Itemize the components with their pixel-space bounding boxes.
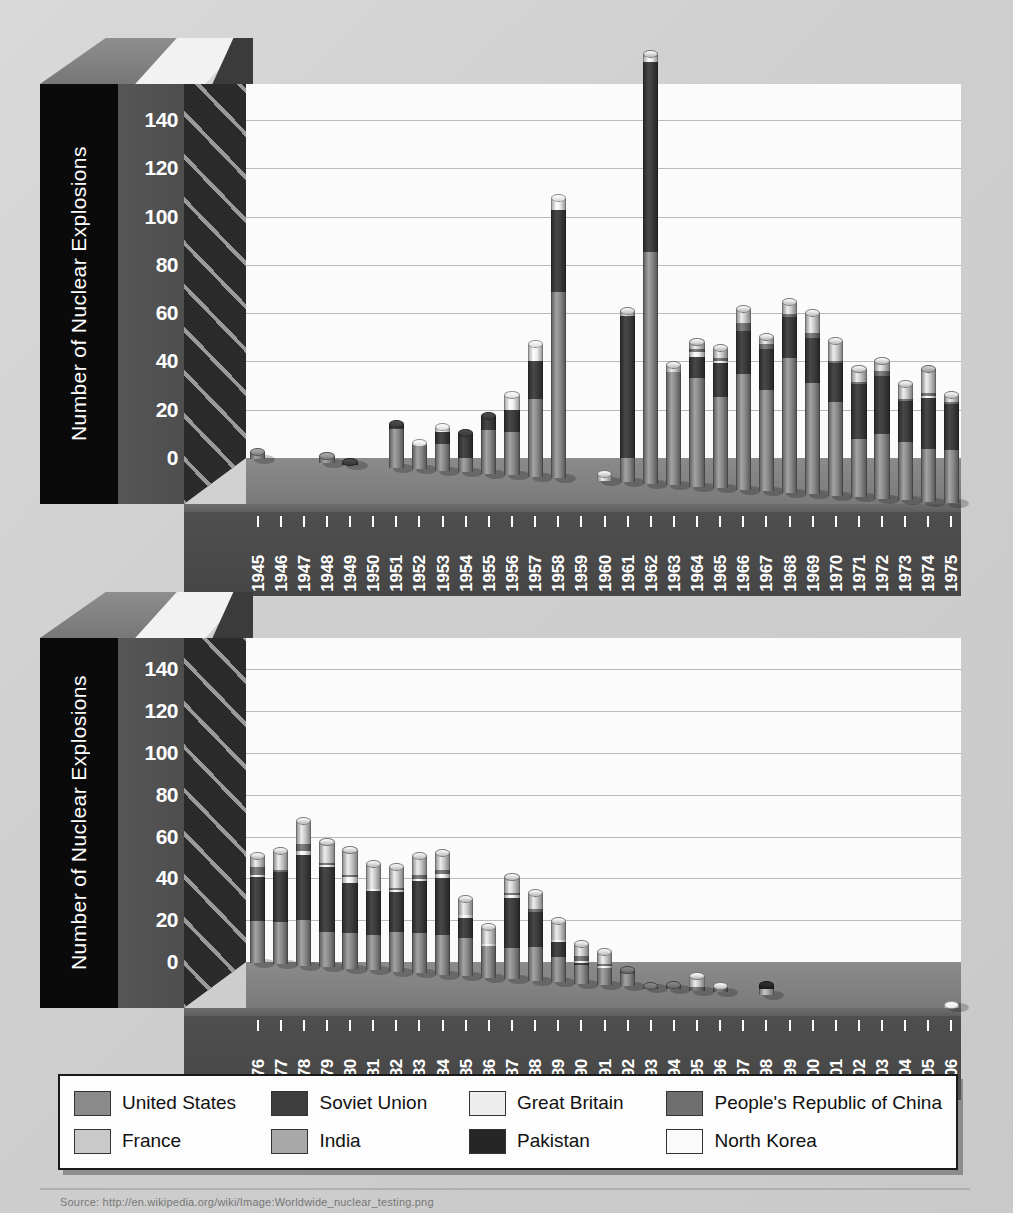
bar-segment-soviet-union bbox=[412, 881, 427, 933]
bar-1957[interactable] bbox=[528, 344, 543, 477]
bar-1970[interactable] bbox=[828, 341, 843, 495]
bar-1963[interactable] bbox=[666, 365, 681, 486]
bar-1966[interactable] bbox=[736, 309, 751, 490]
bar-1994[interactable] bbox=[666, 985, 681, 989]
bar-segment-united-states bbox=[273, 922, 288, 964]
bar-1982[interactable] bbox=[389, 867, 404, 972]
bar-segment-people-s-republic-of-china bbox=[296, 844, 311, 850]
bar-1989[interactable] bbox=[551, 921, 566, 982]
bar-segment-united-states bbox=[666, 372, 681, 485]
bar-cap bbox=[412, 852, 427, 860]
bar-1951[interactable] bbox=[389, 424, 404, 467]
bar-1986[interactable] bbox=[481, 927, 496, 977]
bar-segment-united-states bbox=[689, 378, 704, 487]
bar-1962[interactable] bbox=[643, 54, 658, 483]
bar-1983[interactable] bbox=[412, 856, 427, 973]
bar-segment-people-s-republic-of-china bbox=[319, 863, 334, 865]
bar-1960[interactable] bbox=[597, 474, 612, 481]
bar-1964[interactable] bbox=[689, 342, 704, 487]
bar-1972[interactable] bbox=[874, 361, 889, 499]
bar-cap bbox=[736, 305, 751, 313]
bar-1965[interactable] bbox=[713, 348, 728, 488]
bar-1973[interactable] bbox=[898, 384, 913, 500]
x-axis-label: 1971 bbox=[850, 555, 870, 592]
bar-1976[interactable] bbox=[250, 856, 265, 963]
bar-1956[interactable] bbox=[504, 395, 519, 475]
legend-label: Great Britain bbox=[517, 1092, 624, 1114]
x-axis-tick bbox=[395, 1020, 397, 1031]
bar-segment-soviet-union bbox=[944, 404, 959, 450]
x-axis-tick bbox=[557, 516, 559, 527]
y-tick-label: 40 bbox=[156, 349, 178, 373]
bar-segment-people-s-republic-of-china bbox=[689, 349, 704, 351]
bar-2006[interactable] bbox=[944, 1005, 959, 1008]
x-axis-label: 1954 bbox=[457, 555, 477, 592]
bar-1971[interactable] bbox=[851, 369, 866, 497]
bar-segment-united-states bbox=[759, 390, 774, 491]
bar-1992[interactable] bbox=[620, 970, 635, 987]
bar-1987[interactable] bbox=[504, 877, 519, 979]
bar-1981[interactable] bbox=[366, 864, 381, 971]
bar-1991[interactable] bbox=[597, 952, 612, 985]
bar-1978[interactable] bbox=[296, 821, 311, 965]
legend-label: North Korea bbox=[714, 1130, 816, 1152]
back-left-wall-2 bbox=[184, 638, 246, 1008]
legend-item[interactable]: Great Britain bbox=[469, 1091, 666, 1116]
bar-1993[interactable] bbox=[643, 986, 658, 989]
bar-segment-people-s-republic-of-china bbox=[874, 371, 889, 376]
bar-1977[interactable] bbox=[273, 851, 288, 964]
x-axis-tick bbox=[418, 516, 420, 527]
x-axis-tick bbox=[835, 516, 837, 527]
bar-segment-soviet-union bbox=[805, 338, 820, 384]
bar-segment-people-s-republic-of-china bbox=[597, 964, 612, 966]
bar-1980[interactable] bbox=[342, 850, 357, 969]
bar-1968[interactable] bbox=[782, 302, 797, 493]
bar-1953[interactable] bbox=[435, 427, 450, 470]
bar-1995[interactable] bbox=[689, 976, 704, 991]
bar-1998[interactable] bbox=[759, 985, 774, 995]
bar-cap bbox=[389, 863, 404, 871]
legend-item[interactable]: Pakistan bbox=[469, 1129, 666, 1154]
y-axis-tick-column-1: 020406080100120140 bbox=[118, 84, 184, 504]
bar-cap bbox=[597, 948, 612, 956]
bar-1988[interactable] bbox=[528, 893, 543, 981]
bar-segment-united-states bbox=[435, 935, 450, 975]
gridline bbox=[246, 837, 961, 838]
legend-item[interactable]: United States bbox=[74, 1091, 271, 1116]
bar-cap bbox=[921, 365, 936, 373]
bar-cap bbox=[250, 448, 265, 456]
bar-cap bbox=[481, 412, 496, 420]
bar-1949[interactable] bbox=[342, 462, 357, 465]
legend-item[interactable]: North Korea bbox=[666, 1129, 942, 1154]
legend-item[interactable]: India bbox=[271, 1129, 468, 1154]
bar-1990[interactable] bbox=[574, 944, 589, 984]
bar-1975[interactable] bbox=[944, 395, 959, 504]
bar-1948[interactable] bbox=[319, 456, 334, 463]
y-tick-label: 100 bbox=[144, 205, 178, 229]
bar-1996[interactable] bbox=[713, 986, 728, 992]
bar-segment-soviet-union bbox=[250, 877, 265, 921]
bar-1974[interactable] bbox=[921, 369, 936, 502]
x-axis-tick bbox=[257, 1020, 259, 1031]
bar-1967[interactable] bbox=[759, 337, 774, 491]
bar-cap bbox=[713, 982, 728, 990]
floor-front-2 bbox=[184, 1008, 961, 1016]
bar-1985[interactable] bbox=[458, 899, 473, 976]
bar-1984[interactable] bbox=[435, 853, 450, 974]
bar-1954[interactable] bbox=[458, 433, 473, 472]
bar-segment-great-britain bbox=[458, 915, 473, 917]
bar-1969[interactable] bbox=[805, 313, 820, 494]
legend-item[interactable]: Soviet Union bbox=[271, 1091, 468, 1116]
bar-1961[interactable] bbox=[620, 311, 635, 482]
bar-1979[interactable] bbox=[319, 842, 334, 967]
x-axis-label: 1948 bbox=[318, 555, 338, 592]
bar-segment-soviet-union bbox=[620, 316, 635, 458]
x-axis-tick bbox=[719, 516, 721, 527]
legend-item[interactable]: France bbox=[74, 1129, 271, 1154]
legend-item[interactable]: People's Republic of China bbox=[666, 1091, 942, 1116]
x-axis-label: 1970 bbox=[827, 555, 847, 592]
bar-1955[interactable] bbox=[481, 416, 496, 474]
bar-1945[interactable] bbox=[250, 452, 265, 459]
bar-1958[interactable] bbox=[551, 198, 566, 478]
bar-1952[interactable] bbox=[412, 443, 427, 470]
